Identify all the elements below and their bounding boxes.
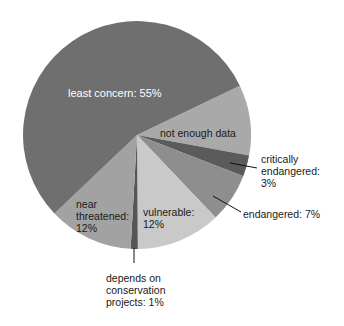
label-depends-line3: projects: 1% bbox=[106, 296, 166, 308]
label-near-line3: 12% bbox=[76, 222, 129, 234]
label-critically-line1: critically bbox=[261, 153, 320, 165]
label-depends-line1: depends on bbox=[106, 272, 166, 284]
label-near-line2: threatened: bbox=[76, 210, 129, 222]
label-critically-line3: 3% bbox=[261, 177, 320, 189]
label-depends-on-conservation: depends on conservation projects: 1% bbox=[106, 272, 166, 308]
label-near-threatened: near threatened: 12% bbox=[76, 198, 129, 234]
label-near-line1: near bbox=[76, 198, 129, 210]
label-not-enough-data: not enough data bbox=[160, 127, 236, 139]
label-critically-endangered: critically endangered: 3% bbox=[261, 153, 320, 189]
label-vulnerable-line2: 12% bbox=[143, 218, 194, 230]
label-vulnerable: vulnerable: 12% bbox=[143, 206, 194, 230]
label-critically-line2: endangered: bbox=[261, 165, 320, 177]
label-vulnerable-line1: vulnerable: bbox=[143, 206, 194, 218]
label-depends-line2: conservation bbox=[106, 284, 166, 296]
label-least-concern: least concern: 55% bbox=[68, 87, 162, 99]
label-endangered: endangered: 7% bbox=[243, 208, 320, 220]
